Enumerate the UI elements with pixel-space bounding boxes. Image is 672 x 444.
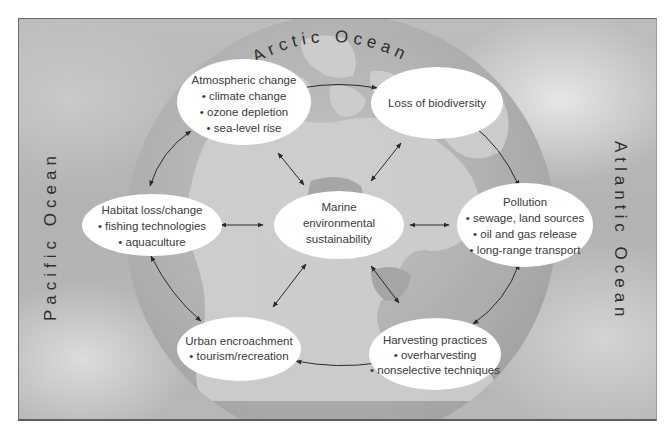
atlantic-ocean-label: Atlantic Ocean: [611, 141, 630, 322]
node-bullet: • fishing technologies: [98, 220, 206, 232]
node-bullet: • overharvesting: [394, 349, 477, 361]
node-bullet: • climate change: [202, 90, 287, 102]
node-bullet: • ozone depletion: [200, 106, 288, 118]
node-title: environmental: [303, 217, 375, 229]
node-loss-of-biodiversity: Loss of biodiversity: [371, 67, 503, 139]
pacific-ocean-label: Pacific Ocean: [41, 151, 60, 321]
node-bullet: • tourism/recreation: [189, 350, 288, 362]
node-title: Marine: [321, 201, 356, 213]
node-title: Urban encroachment: [185, 335, 293, 347]
node-title: Atmospheric change: [192, 74, 297, 86]
diagram-canvas: Arctic Ocean Pacific Ocean Atlantic Ocea…: [19, 19, 656, 419]
node-marine-environmental-sustainability: Marine environmental sustainability: [274, 191, 404, 259]
node-title: sustainability: [306, 233, 372, 245]
node-pollution: Pollution • sewage, land sources • oil a…: [457, 183, 593, 267]
node-bullet: • oil and gas release: [473, 228, 577, 240]
node-title: Pollution: [503, 196, 547, 208]
node-bullet: • sewage, land sources: [466, 212, 585, 224]
node-title: Habitat loss/change: [101, 204, 202, 216]
diagram-frame: Arctic Ocean Pacific Ocean Atlantic Ocea…: [18, 18, 657, 421]
node-title: Harvesting practices: [383, 334, 487, 346]
node-bullet: • nonselective techniques: [370, 364, 500, 376]
node-bullet: • aquaculture: [118, 236, 185, 248]
node-habitat-loss: Habitat loss/change • fishing technologi…: [82, 194, 222, 256]
node-atmospheric-change: Atmospheric change • climate change • oz…: [177, 59, 311, 145]
node-urban-encroachment: Urban encroachment • tourism/recreation: [177, 317, 301, 381]
node-harvesting-practices: Harvesting practices • overharvesting • …: [369, 318, 501, 390]
node-title: Loss of biodiversity: [388, 97, 486, 109]
node-bullet: • sea-level rise: [207, 122, 282, 134]
node-bullet: • long-range transport: [470, 244, 582, 256]
